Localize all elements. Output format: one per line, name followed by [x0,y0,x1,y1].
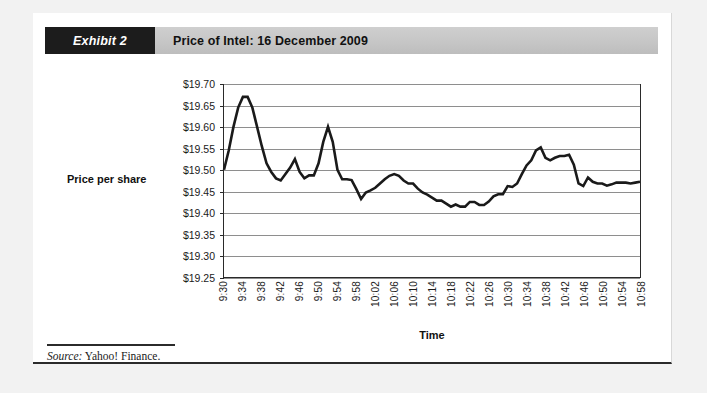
y-axis-tick-1: $19.65 [183,100,215,112]
x-axis-tick-labels: 9:309:349:389:429:469:509:549:5810:0210:… [223,281,641,327]
y-axis-label: Price per share [67,173,147,185]
source-divider [47,344,175,346]
plot-area [223,84,641,278]
y-axis-tick-3: $19.55 [183,143,215,155]
exhibit-header: Exhibit 2 Price of Intel: 16 December 20… [45,27,658,54]
y-axis-tick-0: $19.70 [183,78,215,90]
chart-area: Price per share $19.70$19.65$19.60$19.55… [45,61,658,319]
x-axis-tick-10: 10:10 [408,281,419,307]
x-axis-tick-15: 10:30 [503,281,514,307]
x-axis-tick-19: 10:46 [579,281,590,307]
source-note: Source: Yahoo! Finance. [47,350,160,362]
x-axis-tick-12: 10:18 [446,281,457,307]
x-axis-tick-13: 10:22 [465,281,476,307]
exhibit-number-tag: Exhibit 2 [45,27,155,54]
x-axis-tick-2: 9:38 [256,281,267,301]
x-axis-tick-22: 10:58 [636,281,647,307]
y-axis-tick-9: $19.25 [183,272,215,284]
x-axis-tick-16: 10:34 [522,281,533,307]
x-axis-tick-20: 10:50 [598,281,609,307]
x-axis-tick-4: 9:46 [294,281,305,301]
price-series-line [224,97,640,207]
x-axis-label: Time [223,329,641,341]
y-axis-tick-4: $19.50 [183,164,215,176]
x-axis-tick-7: 9:58 [351,281,362,301]
gridline-9 [224,278,640,279]
x-axis-tick-21: 10:54 [617,281,628,307]
x-axis-tick-0: 9:30 [218,281,229,301]
y-axis-tick-6: $19.40 [183,207,215,219]
series-line-chart [224,84,640,277]
y-axis-tick-5: $19.45 [183,186,215,198]
y-axis-tick-labels: $19.70$19.65$19.60$19.55$19.50$19.45$19.… [163,84,219,278]
exhibit-card: Exhibit 2 Price of Intel: 16 December 20… [33,13,672,364]
source-label: Source: [47,350,82,362]
x-axis-tick-5: 9:50 [313,281,324,301]
x-axis-tick-3: 9:42 [275,281,286,301]
source-text: Yahoo! Finance. [82,350,160,362]
y-tickmark-9 [220,278,224,279]
y-axis-tick-2: $19.60 [183,121,215,133]
x-axis-tick-14: 10:26 [484,281,495,307]
x-axis-tick-18: 10:42 [560,281,571,307]
y-axis-tick-7: $19.35 [183,229,215,241]
x-axis-tick-1: 9:34 [237,281,248,301]
exhibit-title: Price of Intel: 16 December 2009 [173,34,368,48]
x-axis-tick-17: 10:38 [541,281,552,307]
exhibit-title-bar: Price of Intel: 16 December 2009 [155,27,658,54]
x-axis-tick-9: 10:06 [389,281,400,307]
x-axis-tick-6: 9:54 [332,281,343,301]
y-axis-tick-8: $19.30 [183,250,215,262]
x-axis-tick-11: 10:14 [427,281,438,307]
exhibit-page: Exhibit 2 Price of Intel: 16 December 20… [0,0,707,393]
x-axis-tick-8: 10:02 [370,281,381,307]
